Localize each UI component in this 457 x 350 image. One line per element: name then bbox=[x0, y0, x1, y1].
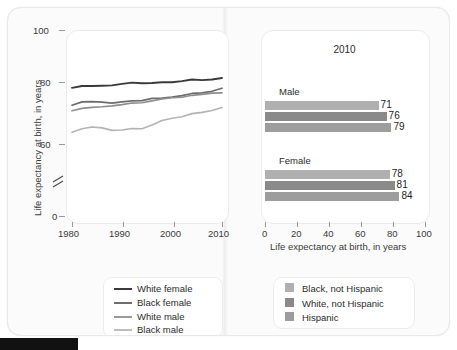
legend-label-black-male: Black male bbox=[137, 325, 183, 335]
bar-chart-xlabel: Life expectancy at birth, in years bbox=[270, 242, 406, 252]
bar-xtick-20: 20 bbox=[291, 229, 302, 239]
page-edge-artifact bbox=[0, 338, 78, 350]
legend-label-black-female: Black female bbox=[137, 298, 191, 308]
legend-label-hispanic: Hispanic bbox=[302, 313, 338, 323]
bar-female-black-not-hispanic bbox=[265, 170, 390, 179]
bar-chart-title: 2010 bbox=[261, 44, 428, 55]
bar-value-male-hispanic: 79 bbox=[393, 122, 404, 131]
line-series-white-female bbox=[72, 78, 222, 88]
bar-xtick-mark-0 bbox=[265, 222, 266, 227]
bar-male-black-not-hispanic bbox=[265, 101, 379, 110]
bar-female-white-not-hispanic bbox=[265, 181, 395, 190]
bar-xtick-0: 0 bbox=[262, 229, 267, 239]
legend-line-black-male bbox=[114, 329, 132, 331]
bar-xtick-mark-80 bbox=[393, 222, 394, 227]
bar-value-male-white: 76 bbox=[389, 111, 400, 120]
legend-swatch-black-not-hispanic bbox=[285, 283, 294, 292]
bar-value-female-black: 78 bbox=[392, 169, 403, 178]
bar-male-hispanic bbox=[265, 123, 391, 132]
bar-female-hispanic bbox=[265, 192, 399, 201]
bar-xtick-mark-100 bbox=[425, 222, 426, 227]
bar-xtick-mark-60 bbox=[361, 222, 362, 227]
bar-chart-legend: Black, not Hispanic White, not Hispanic … bbox=[273, 277, 415, 329]
bar-group-label-male: Male bbox=[279, 86, 300, 97]
legend-label-white-male: White male bbox=[137, 312, 185, 322]
line-series-black-female bbox=[72, 88, 222, 105]
bar-xtick-40: 40 bbox=[323, 229, 334, 239]
legend-line-white-female bbox=[114, 288, 132, 290]
legend-label-white-female: White female bbox=[137, 284, 192, 294]
legend-label-black-not-hispanic: Black, not Hispanic bbox=[302, 284, 383, 294]
legend-label-white-not-hispanic: White, not Hispanic bbox=[302, 299, 384, 309]
legend-line-black-female bbox=[114, 302, 132, 304]
bar-value-female-white: 81 bbox=[397, 180, 408, 189]
bar-xtick-100: 100 bbox=[416, 229, 432, 239]
bar-xtick-80: 80 bbox=[387, 229, 398, 239]
line-series-black-male bbox=[72, 107, 222, 132]
bar-xtick-mark-40 bbox=[329, 222, 330, 227]
bar-group-label-female: Female bbox=[279, 155, 311, 166]
legend-swatch-white-not-hispanic bbox=[285, 298, 294, 307]
bar-value-female-hispanic: 84 bbox=[401, 191, 412, 200]
bar-xtick-60: 60 bbox=[355, 229, 366, 239]
legend-swatch-hispanic bbox=[285, 312, 294, 321]
bar-value-male-black: 71 bbox=[381, 100, 392, 109]
bar-male-white-not-hispanic bbox=[265, 112, 387, 121]
bar-xtick-mark-20 bbox=[297, 222, 298, 227]
line-chart-legend: White female Black female White male Bla… bbox=[103, 277, 223, 336]
legend-line-white-male bbox=[114, 316, 132, 318]
figure-container: Life expectancy at birth, in years 100 8… bbox=[7, 7, 450, 336]
